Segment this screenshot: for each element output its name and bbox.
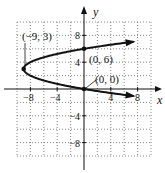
y-tick-label: 8 bbox=[75, 30, 80, 41]
point-label: (0, 6) bbox=[89, 53, 113, 66]
y-axis-arrow-icon bbox=[81, 6, 87, 14]
y-axis-label: y bbox=[92, 5, 99, 19]
point-label: (−9, 3) bbox=[22, 30, 52, 43]
curve bbox=[24, 39, 136, 98]
curve-arrow-icon bbox=[125, 92, 135, 99]
x-tick-label: −8 bbox=[23, 92, 34, 103]
point-marker bbox=[82, 87, 87, 92]
y-tick-label: −4 bbox=[69, 111, 80, 122]
parabola-curve bbox=[24, 42, 134, 96]
point-marker bbox=[82, 47, 87, 52]
x-axis-arrow-icon bbox=[155, 86, 162, 92]
y-tick-label: 4 bbox=[75, 57, 80, 68]
x-axis-label: x bbox=[156, 93, 163, 107]
point-marker bbox=[21, 67, 26, 72]
x-tick-label: 8 bbox=[135, 92, 140, 103]
x-tick-label: −4 bbox=[50, 92, 61, 103]
parabola-graph: y x −8−44884−4−8 (−9, 3)(0, 6)(0, 0) bbox=[0, 0, 165, 173]
point-label: (0, 0) bbox=[95, 73, 119, 86]
y-tick-label: −8 bbox=[69, 138, 80, 149]
curve-arrow-icon bbox=[125, 39, 135, 46]
